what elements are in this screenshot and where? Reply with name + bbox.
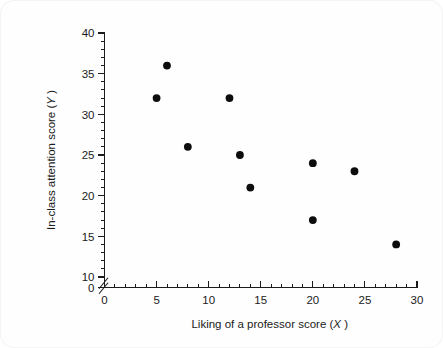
x-tick-label: 0: [101, 294, 107, 306]
figure-card: 010152025303540 051015202530 Liking of a…: [0, 0, 443, 348]
data-point: [153, 94, 161, 102]
y-tick-label: 20: [82, 190, 95, 202]
x-tick-label: 25: [359, 294, 372, 306]
data-point: [351, 167, 359, 175]
x-axis-group: 051015202530: [101, 281, 423, 306]
y-tick-label: 40: [82, 27, 95, 39]
scatter-plot: 010152025303540 051015202530 Liking of a…: [0, 0, 443, 348]
y-axis-group: 010152025303540: [82, 27, 108, 294]
x-axis-title: Liking of a professor score (X ): [191, 318, 348, 330]
data-point: [309, 216, 317, 224]
y-tick-label: 30: [82, 109, 95, 121]
data-point: [246, 184, 254, 192]
y-tick-label: 15: [82, 231, 95, 243]
data-point: [226, 94, 234, 102]
y-tick-label: 0: [88, 282, 94, 294]
x-tick-label: 10: [202, 294, 215, 306]
x-tick-label: 30: [411, 294, 424, 306]
data-point: [236, 151, 244, 159]
y-tick-label: 10: [82, 271, 95, 283]
y-tick-label: 25: [82, 149, 95, 161]
data-points-group: [153, 62, 400, 249]
x-tick-label: 5: [153, 294, 159, 306]
axis-titles-group: Liking of a professor score (X )In-class…: [45, 90, 348, 330]
data-point: [392, 241, 400, 249]
x-tick-label: 15: [254, 294, 267, 306]
x-tick-label: 20: [306, 294, 319, 306]
y-axis-title: In-class attention score (Y ): [45, 90, 57, 230]
data-point: [184, 143, 192, 151]
y-axis-break-icon-2: [99, 283, 108, 294]
y-tick-label: 35: [82, 68, 95, 80]
data-point: [163, 62, 171, 70]
data-point: [309, 159, 317, 167]
